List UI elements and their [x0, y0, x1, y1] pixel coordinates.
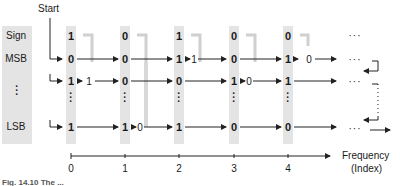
bit-lsb-0: 1 — [68, 121, 74, 133]
bit-msb-1: 0 — [122, 53, 128, 65]
axis-tick-0: 0 — [68, 163, 74, 174]
bit-sign-1: 0 — [122, 30, 128, 42]
bit-msb-4: 1 — [285, 53, 291, 65]
bit-row2-2: 0 — [176, 75, 182, 87]
row-label-vdots: ··· — [14, 85, 20, 97]
bit-sign-4: 0 — [285, 30, 291, 42]
ellipsis-row2: ··· — [349, 76, 362, 87]
bit-row2-1: 0 — [122, 75, 128, 87]
bit-sign-3: 0 — [231, 30, 237, 42]
row-label-lsb: LSB — [0, 121, 32, 132]
bit-row2-4: 1 — [285, 75, 291, 87]
bit-msb-0: 0 — [68, 53, 74, 65]
bit-lsb-4: 0 — [285, 121, 291, 133]
diagram-lines — [0, 0, 400, 186]
vdots-col-1: ··· — [122, 92, 128, 104]
ellipsis-lsb: ··· — [349, 123, 362, 134]
ellipsis-sign: ··· — [349, 30, 362, 41]
axis-label-index: (Index) — [351, 163, 382, 174]
bit-lsb-3: 0 — [231, 121, 237, 133]
axis-tick-1: 1 — [122, 163, 128, 174]
row-label-msb: MSB — [0, 53, 32, 64]
vdots-col-3: ··· — [231, 92, 237, 104]
vdots-col-2: ··· — [176, 92, 182, 104]
run-msb-after-2: 1 — [191, 54, 197, 65]
bit-msb-3: 0 — [231, 53, 237, 65]
vdots-col-0: ··· — [68, 92, 74, 104]
start-label: Start — [38, 3, 59, 14]
ellipsis-msb: ··· — [349, 54, 362, 65]
bit-sign-0: 1 — [68, 30, 74, 42]
bit-sign-2: 1 — [176, 30, 182, 42]
vdots-col-4: ··· — [285, 92, 291, 104]
axis-label-frequency: Frequency — [342, 150, 389, 161]
axis-tick-3: 3 — [231, 163, 237, 174]
bit-row2-0: 1 — [68, 75, 74, 87]
run-row2-after-3: 0 — [246, 76, 252, 87]
row-label-sign: Sign — [0, 30, 32, 41]
run-msb-after-4: 0 — [306, 54, 312, 65]
bit-lsb-1: 1 — [122, 121, 128, 133]
bit-lsb-2: 1 — [176, 121, 182, 133]
run-lsb-after-1: 0 — [137, 122, 143, 133]
run-row2-after-0: 1 — [86, 76, 92, 87]
figure-caption: Fig. 14.10 The ... — [2, 178, 64, 186]
bit-msb-2: 1 — [176, 53, 182, 65]
axis-tick-4: 4 — [285, 163, 291, 174]
axis-tick-2: 2 — [176, 163, 182, 174]
bit-row2-3: 1 — [231, 75, 237, 87]
